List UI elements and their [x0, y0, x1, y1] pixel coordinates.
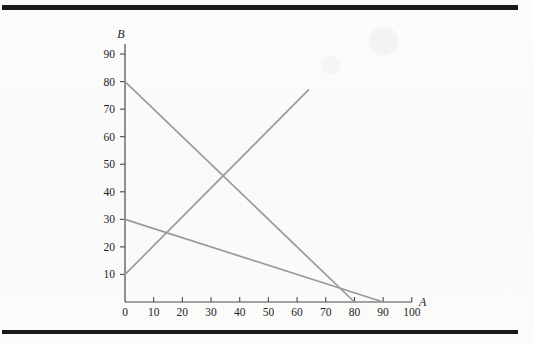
y-axis-label: B: [117, 27, 125, 41]
x-tick-label: 10: [148, 306, 160, 318]
shallow-descending-line: [125, 219, 383, 302]
x-tick-label: 70: [320, 306, 332, 318]
y-tick-label: 80: [104, 76, 116, 88]
x-tick-label: 0: [122, 306, 128, 318]
data-series-group: [125, 82, 383, 302]
x-tick-label: 50: [263, 306, 275, 318]
y-tick-label: 30: [104, 213, 116, 225]
x-tick-label: 20: [177, 306, 189, 318]
y-tick-label: 40: [104, 186, 116, 198]
chart-plot: 102030405060708090 010203040506070809010…: [0, 0, 533, 344]
y-tick-group: 102030405060708090: [104, 48, 126, 280]
x-axis-label: A: [418, 295, 427, 309]
y-tick-label: 90: [104, 48, 116, 60]
steep-descending-line: [125, 82, 354, 302]
x-tick-label: 90: [377, 306, 389, 318]
x-tick-label: 30: [205, 306, 217, 318]
y-tick-label: 50: [104, 158, 116, 170]
axes-group: [125, 44, 412, 302]
figure-page: 102030405060708090 010203040506070809010…: [0, 0, 533, 344]
y-tick-label: 70: [104, 103, 116, 115]
x-tick-label: 80: [349, 306, 361, 318]
x-tick-label: 40: [234, 306, 246, 318]
y-tick-label: 60: [104, 131, 116, 143]
y-tick-label: 20: [104, 241, 116, 253]
ascending-line: [125, 90, 309, 275]
y-tick-label: 10: [104, 268, 116, 280]
x-tick-label: 60: [291, 306, 303, 318]
